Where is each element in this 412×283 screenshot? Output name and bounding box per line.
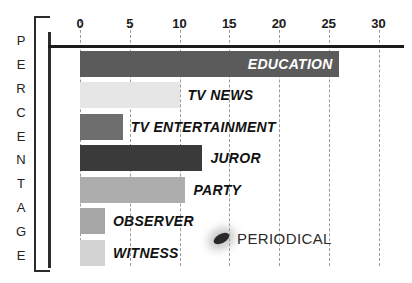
y-axis-letter: R xyxy=(16,82,25,95)
y-axis-letter: E xyxy=(17,249,26,262)
bar-label: TV ENTERTAINMENT xyxy=(131,119,276,135)
x-axis-tick-label: 30 xyxy=(371,16,385,31)
annotation-label-periodical: PERIODICAL xyxy=(237,230,332,247)
bar-label: PARTY xyxy=(193,182,241,198)
bar-series: EDUCATIONTV NEWSTV ENTERTAINMENTJURORPAR… xyxy=(48,48,406,268)
plot-area: 051015202530 EDUCATIONTV NEWSTV ENTERTAI… xyxy=(48,16,406,268)
bar[interactable] xyxy=(80,177,185,203)
bar-row: TV ENTERTAINMENT xyxy=(48,111,406,143)
bar-label: EDUCATION xyxy=(248,56,333,72)
bar-row: EDUCATION xyxy=(48,48,406,80)
y-axis-letter: N xyxy=(16,153,25,166)
y-axis-letter: T xyxy=(17,177,25,190)
annotation-row-periodical: PERIODICAL xyxy=(48,223,406,254)
bar-label: JUROR xyxy=(210,150,261,166)
bar-row: TV NEWS xyxy=(48,80,406,112)
x-axis-tick-label: 0 xyxy=(76,16,83,31)
x-axis-tick-label: 10 xyxy=(172,16,186,31)
bar[interactable] xyxy=(80,82,180,108)
y-axis-letter: E xyxy=(17,130,26,143)
x-axis-tick-label: 25 xyxy=(322,16,336,31)
bar[interactable] xyxy=(80,145,202,171)
bar-chart: P E R C E N T A G E 051015202530 EDUCATI… xyxy=(0,0,412,283)
y-axis-letter: P xyxy=(17,34,26,47)
bar[interactable] xyxy=(80,114,123,140)
y-axis-title: P E R C E N T A G E xyxy=(8,34,34,262)
y-axis-letter: E xyxy=(17,58,26,71)
x-axis-tick-label: 5 xyxy=(126,16,133,31)
y-axis-letter: C xyxy=(16,106,25,119)
y-axis-letter: G xyxy=(16,225,26,238)
y-axis-letter: A xyxy=(17,201,26,214)
bar-row: JUROR xyxy=(48,143,406,175)
periodical-marker-icon xyxy=(212,230,231,246)
x-axis-tick-label: 20 xyxy=(272,16,286,31)
x-axis-tick-label: 15 xyxy=(222,16,236,31)
bar-row: PARTY xyxy=(48,174,406,206)
bar-label: TV NEWS xyxy=(188,87,254,103)
